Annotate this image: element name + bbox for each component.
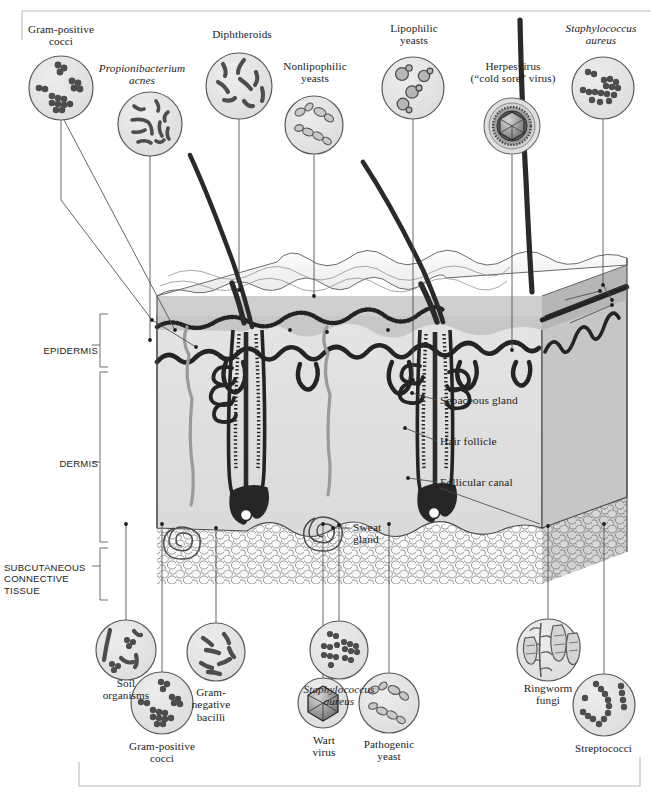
label-dermis: DERMIS bbox=[6, 458, 98, 469]
inset-ringworm-fungi bbox=[517, 619, 580, 681]
inset-gram-negative-bacilli bbox=[187, 623, 245, 681]
label-herpesvirus: Herpesvirus (“cold sore” virus) bbox=[455, 60, 571, 85]
inset-staphylococcus-aureus-bottom bbox=[310, 621, 368, 679]
inset-soil-organisms bbox=[96, 620, 156, 680]
label-follicular-canal: Follicular canal bbox=[440, 476, 590, 488]
label-hair-follicle: Hair follicle bbox=[440, 435, 590, 447]
inset-staphylococcus-aureus-top bbox=[572, 57, 634, 119]
layer-brackets bbox=[92, 314, 108, 600]
label-subcutaneous-connective-tissue: SUBCUTANEOUS CONNECTIVE TISSUE bbox=[4, 562, 100, 596]
inset-herpesvirus bbox=[484, 98, 540, 154]
label-propionibacterium-acnes: Propionibacterium acnes bbox=[84, 62, 200, 87]
label-epidermis: EPIDERMIS bbox=[6, 345, 98, 356]
inset-propionibacterium-acnes bbox=[118, 92, 182, 156]
label-sebaceous-gland: Sebaceous gland bbox=[440, 394, 590, 406]
label-gram-positive-cocci-top: Gram-positive cocci bbox=[10, 23, 112, 48]
label-pathogenic-yeast: Pathogenic yeast bbox=[343, 738, 435, 763]
label-soil-organisms: Soil organisms bbox=[80, 677, 172, 702]
label-gram-negative-bacilli: Gram- negative bacilli bbox=[172, 686, 250, 723]
inset-lipophilic-yeasts bbox=[382, 57, 444, 119]
inset-nonlipophilic-yeasts bbox=[285, 96, 343, 154]
label-nonlipophilic-yeasts: Nonlipophilic yeasts bbox=[267, 60, 363, 85]
label-staphylococcus-aureus-top: Staphylococcus aureus bbox=[551, 22, 651, 47]
label-staphylococcus-aureus-bottom: Staphylococcus aureus bbox=[287, 683, 391, 708]
label-sweat-gland: Sweat gland bbox=[353, 521, 413, 546]
inset-diphtheroids bbox=[206, 53, 272, 119]
label-diphtheroids: Diphtheroids bbox=[190, 28, 294, 40]
label-lipophilic-yeasts: Lipophilic yeasts bbox=[366, 22, 462, 47]
label-ringworm-fungi: Ringworm fungi bbox=[502, 682, 594, 707]
label-streptococci: Streptococci bbox=[556, 742, 651, 754]
label-gram-positive-cocci-bottom: Gram-positive cocci bbox=[110, 740, 214, 765]
figure-canvas: Gram-positive cocci Propionibacterium ac… bbox=[0, 0, 651, 799]
